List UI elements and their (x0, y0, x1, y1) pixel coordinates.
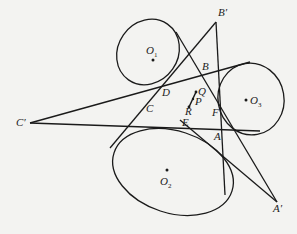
line-aprime-lower (180, 120, 277, 202)
label-e: E (182, 117, 189, 128)
label-o2: O2 (160, 176, 171, 190)
label-c-prime: C′ (16, 117, 26, 128)
label-b-prime: B′ (218, 7, 227, 18)
label-p: P (195, 96, 202, 107)
point-o3 (245, 99, 248, 102)
label-f: F (212, 107, 219, 118)
point-p (192, 98, 194, 100)
point-q (195, 91, 198, 94)
label-c: C (146, 103, 153, 114)
line-aprime-upper (176, 32, 277, 202)
label-a-prime: A′ (273, 203, 282, 214)
label-o1: O1 (146, 45, 157, 59)
label-r: R (185, 106, 192, 117)
geometry-diagram: B′ A′ C′ O1 O3 O2 A B C D E F Q P R (0, 0, 297, 234)
label-d: D (162, 87, 170, 98)
ellipse-o2 (101, 114, 244, 230)
label-a: A (214, 131, 221, 142)
label-o3: O3 (250, 95, 261, 109)
point-o2 (166, 169, 169, 172)
label-b: B (202, 61, 209, 72)
diagram-svg (0, 0, 297, 234)
